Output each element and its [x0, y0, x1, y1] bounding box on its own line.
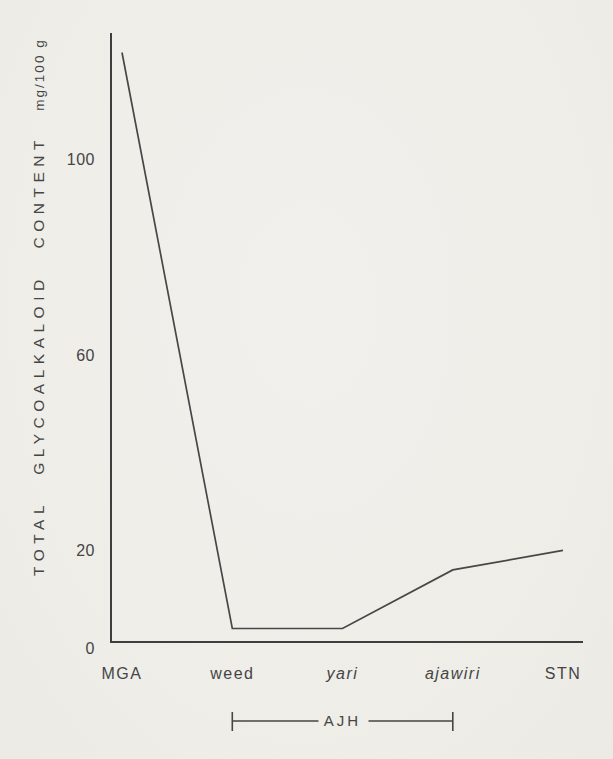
- y-tick-label: 20: [76, 542, 95, 559]
- x-category-label: yari: [326, 665, 359, 682]
- y-tick-label: 100: [67, 151, 95, 168]
- y-axis-title-text: TOTAL GLYCOALKALOID CONTENT: [30, 135, 47, 576]
- y-tick-label: 60: [76, 347, 95, 364]
- x-axis-category-labels: MGAweedyariajawiriSTN: [102, 665, 582, 682]
- y-axis-unit-text: mg/100 g: [32, 38, 47, 110]
- x-category-label: MGA: [102, 665, 143, 682]
- x-category-label: weed: [209, 665, 254, 682]
- y-tick-label: 0: [86, 640, 95, 657]
- axes: [111, 33, 583, 642]
- scanned-figure-page: 02060100 MGAweedyariajawiriSTN AJH TOTAL…: [0, 0, 613, 759]
- x-category-label: ajawiri: [425, 665, 481, 682]
- x-category-label: STN: [545, 665, 582, 682]
- data-line: [122, 53, 563, 629]
- y-axis-tick-labels: 02060100: [67, 151, 95, 656]
- glycoalkaloid-line-chart: 02060100 MGAweedyariajawiriSTN AJH TOTAL…: [0, 0, 613, 759]
- y-axis-title: TOTAL GLYCOALKALOID CONTENT mg/100 g: [30, 38, 47, 576]
- group-bracket-label: AJH: [324, 712, 361, 729]
